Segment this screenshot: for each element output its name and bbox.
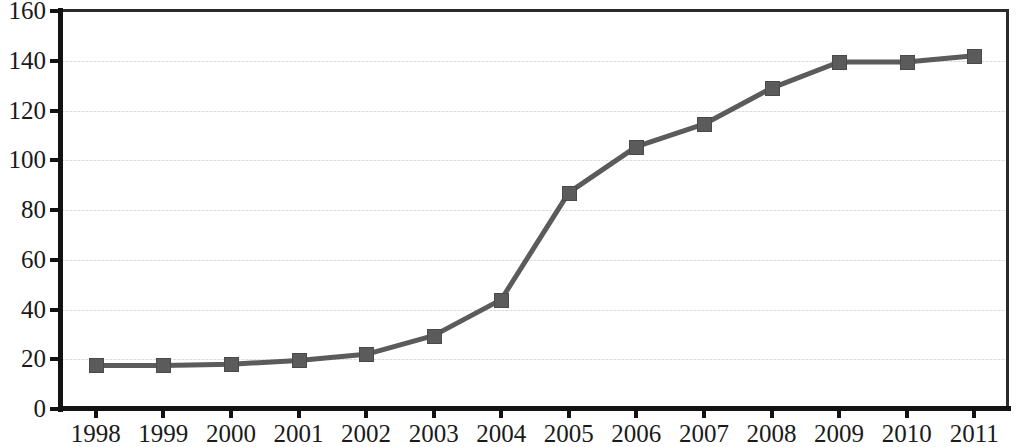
y-axis-label-160: 160 — [0, 0, 46, 23]
data-point-2004 — [494, 293, 509, 308]
line-series — [62, 11, 1008, 409]
y-axis-label-0: 0 — [0, 396, 46, 421]
data-point-1998 — [89, 358, 104, 373]
plot-top-border — [62, 9, 1009, 12]
data-point-2006 — [629, 140, 644, 155]
x-axis-label-2011: 2011 — [929, 421, 1019, 446]
y-axis-label-80: 80 — [0, 197, 46, 222]
y-axis-label-140: 140 — [0, 48, 46, 73]
data-point-2007 — [697, 117, 712, 132]
x-axis-line — [58, 406, 1011, 411]
data-point-2000 — [224, 357, 239, 372]
data-point-2002 — [359, 347, 374, 362]
plot-area — [62, 11, 1008, 409]
data-point-1999 — [156, 358, 171, 373]
data-point-2001 — [292, 353, 307, 368]
series-polyline — [96, 56, 974, 366]
y-axis-label-20: 20 — [0, 346, 46, 371]
y-axis-line — [58, 8, 63, 412]
data-point-2011 — [967, 49, 982, 64]
y-axis-label-100: 100 — [0, 147, 46, 172]
plot-right-border — [1006, 9, 1009, 408]
data-point-2010 — [900, 55, 915, 70]
y-axis-label-60: 60 — [0, 247, 46, 272]
y-axis-label-40: 40 — [0, 297, 46, 322]
data-point-2008 — [765, 81, 780, 96]
data-point-2005 — [562, 186, 577, 201]
y-axis-label-120: 120 — [0, 98, 46, 123]
data-point-2003 — [427, 329, 442, 344]
chart-container: 020406080100120140160 199819992000200120… — [0, 0, 1019, 447]
data-point-2009 — [832, 55, 847, 70]
